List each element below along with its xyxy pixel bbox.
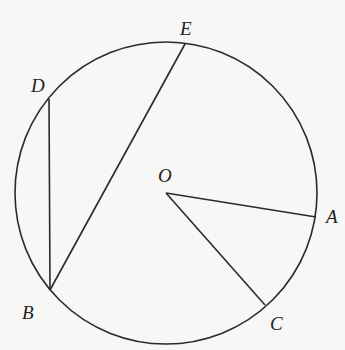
point-labels: OABCDE — [22, 18, 338, 334]
label-point-d: D — [30, 75, 45, 96]
segment-oc — [166, 193, 265, 305]
segments — [49, 44, 316, 305]
segment-db — [49, 99, 50, 290]
geometry-diagram: OABCDE — [0, 0, 345, 350]
label-point-e: E — [179, 18, 192, 39]
label-point-b: B — [22, 302, 34, 323]
label-point-c: C — [270, 313, 283, 334]
segment-oa — [166, 193, 316, 217]
label-point-o: O — [158, 165, 172, 186]
label-point-a: A — [324, 206, 338, 227]
